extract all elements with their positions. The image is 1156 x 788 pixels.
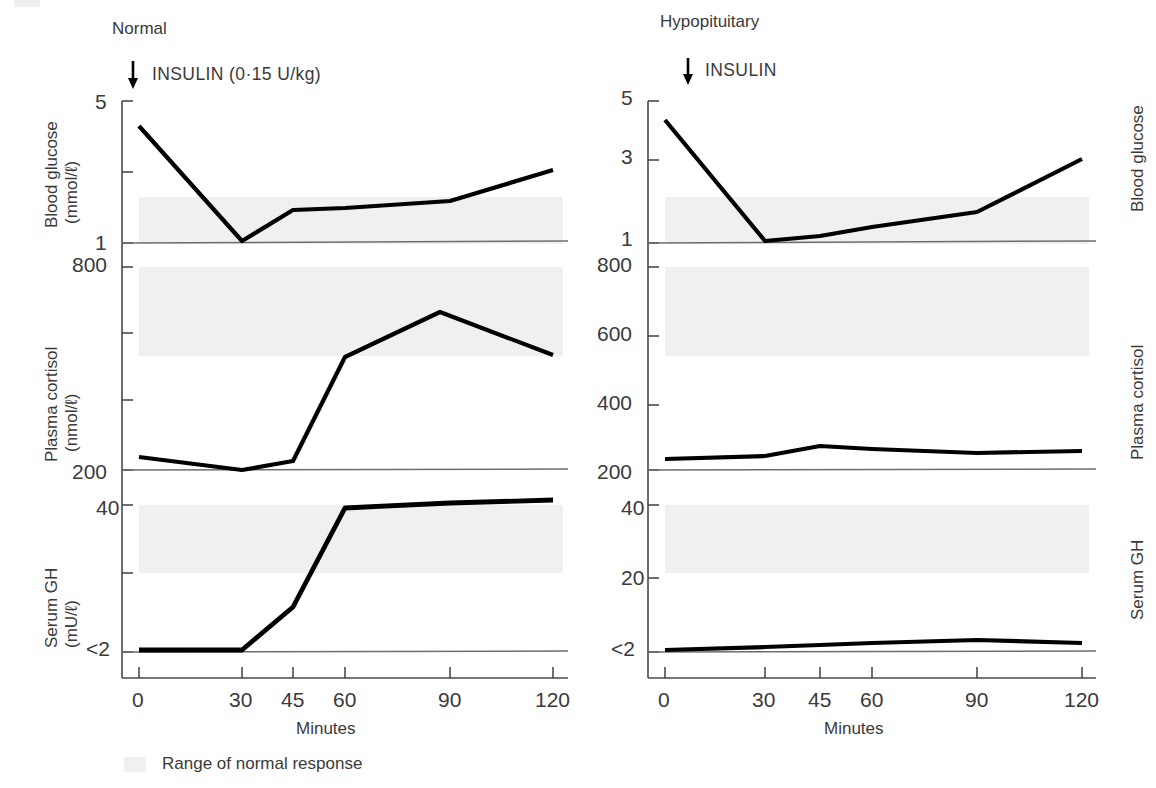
normal-band-glucose-right xyxy=(665,197,1089,244)
normal-band-cortisol-right xyxy=(665,267,1089,356)
baseline-cortisol-right xyxy=(648,469,1096,470)
plot-canvas xyxy=(0,0,1156,788)
normal-band-glucose-left xyxy=(139,197,563,244)
series-cortisol-hypopituitary xyxy=(665,446,1082,459)
insulin-arrow-down-icon-left xyxy=(128,61,138,89)
baseline-cortisol-left xyxy=(122,469,568,470)
series-gh-hypopituitary xyxy=(665,640,1082,650)
normal-band-gh-right xyxy=(665,505,1089,573)
figure-insulin-tolerance-test: Normal Hypopituitary INSULIN (0·15 U/kg)… xyxy=(0,0,1156,788)
normal-band-cortisol-left xyxy=(139,267,563,356)
normal-band-gh-left xyxy=(139,505,563,573)
insulin-arrow-down-icon-right xyxy=(683,58,693,85)
baseline-gh-right xyxy=(648,651,1096,652)
